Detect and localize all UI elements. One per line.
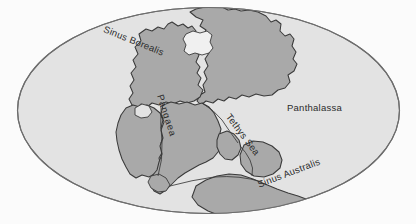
pangaea-map-figure: Sinus Borealis Panthalassa Tethys Sea Si… — [0, 0, 416, 224]
map-canvas — [0, 0, 416, 224]
inland-sea-sinus-borealis — [183, 31, 213, 55]
landmass-central-shelf — [135, 104, 152, 118]
